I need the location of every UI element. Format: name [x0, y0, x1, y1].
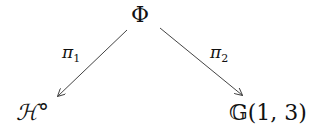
label-pi2: π2 — [210, 44, 228, 64]
label-pi1-symbol: π — [62, 42, 73, 62]
left-node-h: ℋ° — [16, 102, 49, 124]
arrow-pi2 — [160, 28, 242, 95]
label-pi2-subscript: 2 — [221, 52, 228, 65]
label-pi1-subscript: 1 — [73, 52, 80, 65]
label-pi2-symbol: π — [210, 42, 221, 62]
top-node-phi: Φ — [131, 4, 149, 26]
label-pi1: π1 — [62, 44, 80, 64]
right-node-g: 𝔾(1, 3) — [229, 102, 307, 124]
